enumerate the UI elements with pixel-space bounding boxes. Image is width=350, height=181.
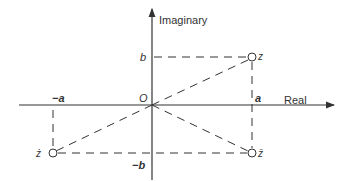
label-z-bar: z̄ xyxy=(257,148,263,159)
vector-z xyxy=(152,60,248,105)
tick-neg-b: −b xyxy=(132,159,145,171)
label-neg-z: ż xyxy=(35,148,41,159)
point-neg-z xyxy=(49,149,57,157)
tick-b: b xyxy=(140,51,146,63)
vector-z-bar xyxy=(152,105,248,151)
point-z-bar xyxy=(248,149,256,157)
argand-diagram: Imaginary Real O b −b a −a z z̄ ż xyxy=(0,0,350,181)
real-axis-label: Real xyxy=(284,94,307,106)
tick-a: a xyxy=(255,92,261,104)
tick-neg-a: −a xyxy=(52,92,65,104)
point-z xyxy=(248,53,256,61)
imaginary-axis-label: Imaginary xyxy=(159,14,208,26)
vector-neg-z xyxy=(56,105,152,151)
origin-label: O xyxy=(139,92,148,104)
label-z: z xyxy=(257,51,263,62)
